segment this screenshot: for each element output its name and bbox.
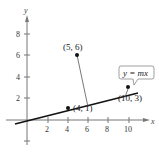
chart: y x 2 4 6 8 10 2 4 6 8 (5, 6) (4, 1) (10… <box>0 0 159 155</box>
x-tick-label: 4 <box>65 125 69 134</box>
y-tick-label: 4 <box>16 73 20 82</box>
y-tick-label: 6 <box>16 51 20 60</box>
y-axis-label: y <box>23 6 28 15</box>
x-tick-label: 8 <box>105 125 109 134</box>
x-tick-label: 10 <box>124 125 132 134</box>
x-tick-label: 2 <box>45 125 49 134</box>
y-tick-label: 8 <box>16 30 20 39</box>
x-axis-label: x <box>150 117 155 126</box>
equation-label: y = mx <box>122 68 148 78</box>
leader-5-6 <box>77 55 88 107</box>
equation-callout: y = mx <box>119 66 154 85</box>
y-tick-label: 2 <box>16 94 20 103</box>
point-10-3 <box>126 85 130 89</box>
point-4-1 <box>66 106 70 110</box>
point-5-6 <box>75 53 79 57</box>
x-tick-label: 6 <box>85 125 89 134</box>
point-label: (4, 1) <box>73 103 93 113</box>
point-label: (5, 6) <box>63 42 83 52</box>
point-label: (10, 3) <box>118 93 142 103</box>
